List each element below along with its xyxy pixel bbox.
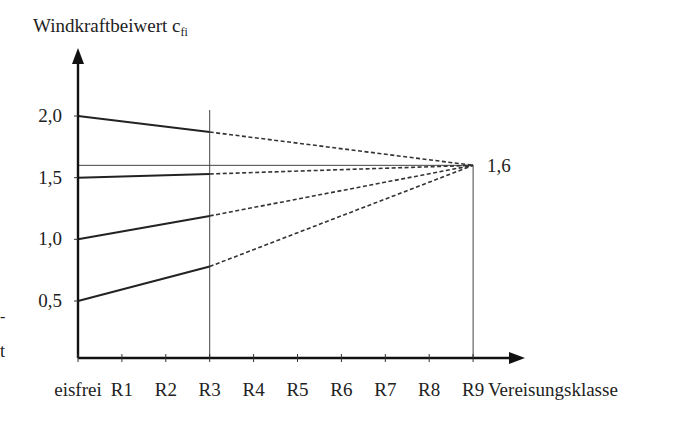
series-4-solid (78, 266, 210, 301)
x-tick-label-r8: R8 (418, 379, 440, 400)
chart: 0,51,01,52,0eisfreiR1R2R3R4R5R6R7R8R9 Wi… (0, 0, 675, 431)
x-axis-arrowhead (509, 352, 525, 364)
y-axis-title-main: Windkraftbeiwert c (33, 15, 180, 36)
y-tick-label: 0,5 (38, 290, 62, 311)
series-1-solid (78, 116, 210, 132)
series-4-dashed (210, 165, 473, 266)
series-2-solid (78, 174, 210, 178)
x-tick-label-eisfrei: eisfrei (54, 379, 101, 400)
y-axis-title: Windkraftbeiwert cfi (33, 15, 188, 39)
y-tick-label: 2,0 (38, 105, 62, 126)
y-tick-label: 1,5 (38, 167, 62, 188)
margin-fragment-t: t (0, 341, 5, 361)
x-tick-label-r7: R7 (374, 379, 396, 400)
x-axis-title: Vereisungsklasse (488, 379, 618, 400)
series-3-solid (78, 216, 210, 239)
reference-lines (78, 110, 473, 358)
margin-fragment-dash: - (0, 308, 5, 325)
y-axis-title-subscript: fi (180, 25, 188, 39)
series-1-dashed (210, 132, 473, 165)
x-tick-label-r2: R2 (155, 379, 177, 400)
x-tick-label-r3: R3 (199, 379, 221, 400)
x-tick-label-r5: R5 (286, 379, 308, 400)
annotation-1-6: 1,6 (487, 155, 511, 176)
ticks: 0,51,01,52,0eisfreiR1R2R3R4R5R6R7R8R9 (38, 105, 484, 400)
x-tick-label-r4: R4 (243, 379, 266, 400)
x-tick-label-r9: R9 (462, 379, 484, 400)
y-tick-label: 1,0 (38, 228, 62, 249)
axes (72, 48, 525, 364)
x-tick-label-r6: R6 (330, 379, 352, 400)
x-tick-label-r1: R1 (111, 379, 133, 400)
series-lines (78, 116, 473, 301)
y-axis-arrowhead (72, 48, 84, 64)
